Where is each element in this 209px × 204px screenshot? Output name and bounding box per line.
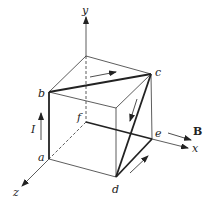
z-axis-hidden bbox=[49, 122, 86, 159]
label-d: d bbox=[112, 183, 119, 196]
label-a: a bbox=[38, 151, 45, 164]
arrow-field-B bbox=[168, 133, 191, 140]
label-y: y bbox=[81, 4, 89, 17]
z-axis bbox=[22, 159, 49, 186]
current-loop bbox=[49, 74, 152, 177]
label-z: z bbox=[12, 186, 19, 199]
label-x: x bbox=[192, 142, 199, 155]
label-e: e bbox=[155, 127, 162, 140]
label-c: c bbox=[155, 66, 161, 79]
label-current: I bbox=[30, 123, 36, 136]
arrow-bc bbox=[90, 72, 116, 77]
cube-diagram: y x z a b c d e f I B bbox=[0, 0, 209, 204]
label-b: b bbox=[38, 87, 45, 100]
label-f: f bbox=[76, 111, 83, 124]
diagram-canvas: y x z a b c d e f I B bbox=[0, 0, 209, 204]
x-axis bbox=[152, 139, 188, 148]
label-field: B bbox=[193, 125, 202, 138]
